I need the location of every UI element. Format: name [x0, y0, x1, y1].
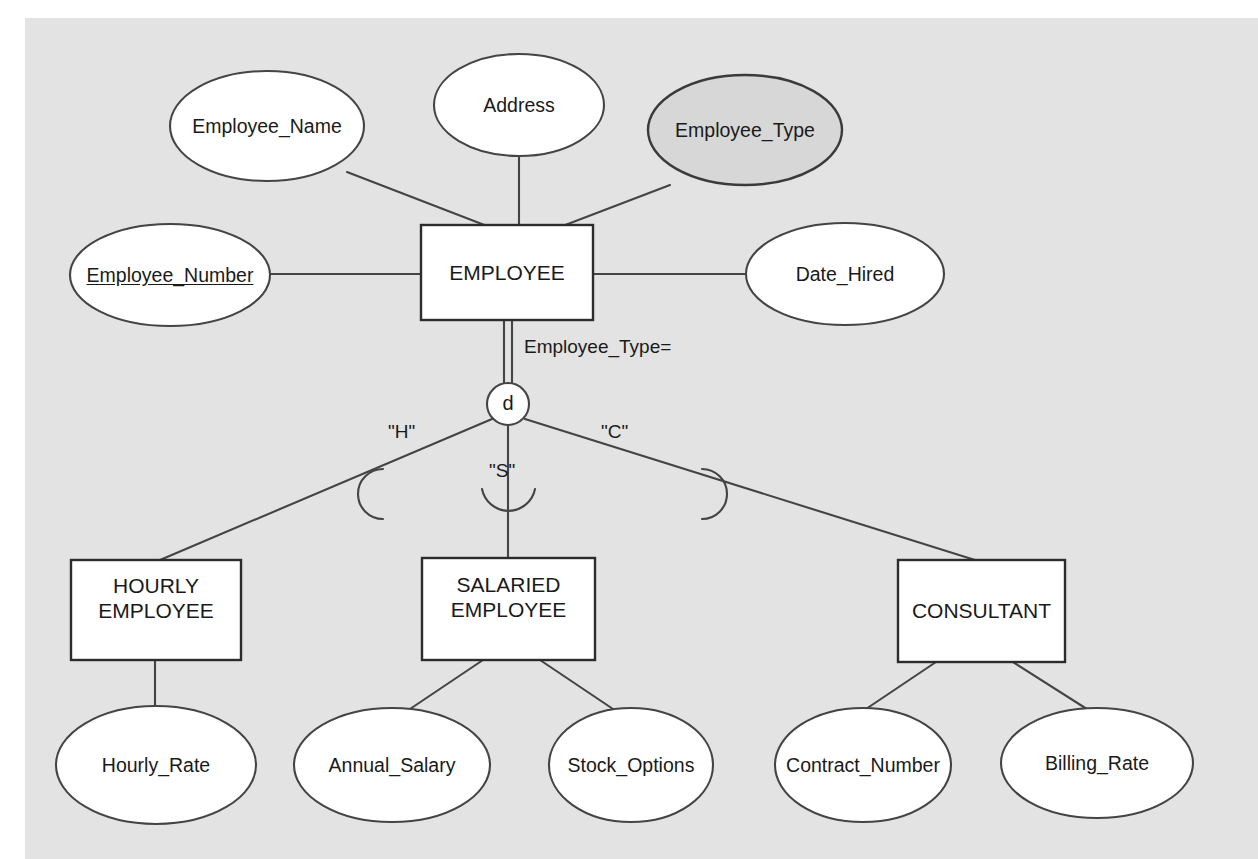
discriminator-value-salaried: "S" — [489, 460, 515, 482]
attribute-ellipse-billing-rate — [1001, 708, 1193, 818]
attribute-ellipse-hourly-rate — [56, 706, 256, 824]
edge-employee-type — [560, 185, 670, 227]
er-diagram-canvas: Employee_Name Address Employee_Type Empl… — [0, 0, 1258, 859]
entity-rect-hourly-employee — [71, 560, 241, 660]
attribute-ellipse-date-hired — [746, 223, 944, 325]
edge-employee-name — [347, 172, 487, 226]
discriminator-circle — [487, 383, 529, 425]
attribute-ellipse-stock-options — [549, 708, 713, 822]
discriminator-value-consultant: "C" — [601, 421, 628, 443]
edge-annual-salary — [410, 660, 483, 709]
attribute-ellipse-employee-type — [648, 75, 842, 185]
attribute-ellipse-annual-salary — [294, 708, 490, 822]
diagram-vector-layer — [0, 0, 1258, 859]
edge-disc-hourly — [160, 419, 492, 560]
edge-contract-number — [863, 662, 936, 711]
entity-rect-salaried-employee — [422, 558, 595, 660]
attribute-ellipse-address — [434, 54, 604, 156]
attribute-ellipse-contract-number — [775, 708, 951, 822]
entity-rect-consultant — [898, 560, 1065, 662]
attribute-ellipse-employee-name — [170, 71, 364, 181]
discriminator-attribute-label: Employee_Type= — [524, 336, 671, 358]
edge-stock-options — [540, 660, 613, 709]
entity-rect-employee — [421, 225, 593, 320]
edge-billing-rate — [1013, 662, 1090, 711]
attribute-ellipse-employee-number — [70, 224, 270, 326]
discriminator-value-hourly: "H" — [388, 421, 415, 443]
subset-arc-hourly — [358, 469, 383, 519]
edge-disc-consultant — [525, 419, 975, 560]
